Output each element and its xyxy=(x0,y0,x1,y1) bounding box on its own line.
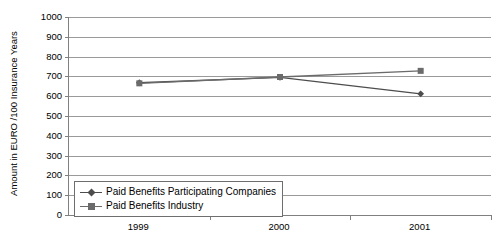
x-tick-label: 2000 xyxy=(239,222,319,232)
diamond-marker-icon xyxy=(79,186,103,198)
y-axis-title: Amount in EURO /100 Insurance Years xyxy=(8,8,19,220)
x-axis-tick-labels: 199920002001 xyxy=(68,222,490,236)
square-marker-icon xyxy=(418,68,424,74)
legend-item-industry: Paid Benefits Industry xyxy=(79,199,276,213)
x-tick-mark xyxy=(350,215,351,220)
diamond-marker-icon xyxy=(417,90,424,97)
x-tick-label: 1999 xyxy=(98,222,178,232)
legend-label-industry: Paid Benefits Industry xyxy=(106,201,203,211)
y-tick-label: 900 xyxy=(26,32,62,42)
y-tick-label: 1000 xyxy=(26,12,62,22)
square-marker-icon xyxy=(79,200,103,212)
y-axis-tick-labels: 01002003004005006007008009001000 xyxy=(26,17,62,215)
chart-legend: Paid Benefits Participating Companies Pa… xyxy=(74,181,283,217)
square-marker-icon xyxy=(136,80,142,86)
y-tick-label: 200 xyxy=(26,171,62,181)
y-tick-label: 400 xyxy=(26,131,62,141)
y-tick-label: 500 xyxy=(26,111,62,121)
y-tick-label: 300 xyxy=(26,151,62,161)
square-marker-icon xyxy=(277,74,283,80)
y-tick-label: 700 xyxy=(26,72,62,82)
y-tick-label: 100 xyxy=(26,190,62,200)
y-tick-label: 0 xyxy=(26,210,62,220)
legend-item-participating: Paid Benefits Participating Companies xyxy=(79,185,276,199)
y-tick-label: 800 xyxy=(26,52,62,62)
y-tick-mark xyxy=(65,215,69,216)
x-tick-mark xyxy=(491,215,492,220)
legend-label-participating: Paid Benefits Participating Companies xyxy=(106,187,276,197)
line-chart: Amount in EURO /100 Insurance Years 0100… xyxy=(0,0,502,248)
y-tick-label: 600 xyxy=(26,91,62,101)
x-tick-label: 2001 xyxy=(380,222,460,232)
